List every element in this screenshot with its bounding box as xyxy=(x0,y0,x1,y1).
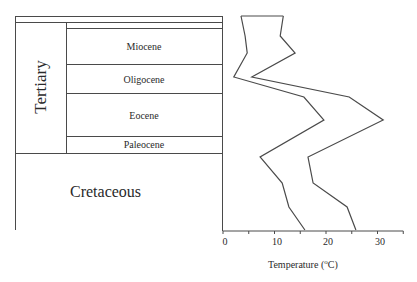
series-upper-bound-line xyxy=(252,16,383,230)
temperature-chart xyxy=(0,0,417,282)
x-tick-label-10: 10 xyxy=(267,236,287,247)
x-axis-label: Temperature (oC) xyxy=(268,258,338,270)
series-lower-bound-line xyxy=(234,16,324,230)
x-tick-label-20: 20 xyxy=(318,236,338,247)
faded-caption xyxy=(60,270,360,276)
x-axis xyxy=(223,231,403,234)
x-axis-label-prefix: Temperature ( xyxy=(268,259,324,270)
x-axis-label-suffix: C) xyxy=(328,259,338,270)
x-tick-label-0: 0 xyxy=(215,236,235,247)
x-tick-label-30: 30 xyxy=(370,236,390,247)
